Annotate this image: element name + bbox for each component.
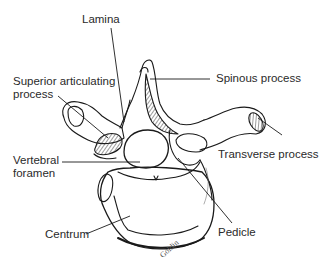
leader-superior-articulating bbox=[58, 96, 108, 138]
superior-articulating-facet bbox=[95, 134, 122, 155]
label-spinous-process: Spinous process bbox=[216, 72, 301, 85]
spinous-process-hatched bbox=[145, 74, 178, 134]
label-vertebral-foramen: Vertebral bbox=[13, 154, 59, 167]
label-vertebral-foramen-2: foramen bbox=[13, 167, 55, 180]
label-centrum: Centrum bbox=[45, 228, 89, 241]
label-superior-articulating: Superior articulating bbox=[13, 75, 115, 88]
label-superior-articulating-2: process bbox=[13, 88, 53, 101]
label-pedicle: Pedicle bbox=[218, 226, 256, 239]
label-lamina: Lamina bbox=[82, 13, 120, 26]
label-transverse-process: Transverse process bbox=[218, 148, 319, 161]
leader-pedicle bbox=[178, 158, 232, 223]
vertebra-diagram bbox=[0, 0, 323, 259]
